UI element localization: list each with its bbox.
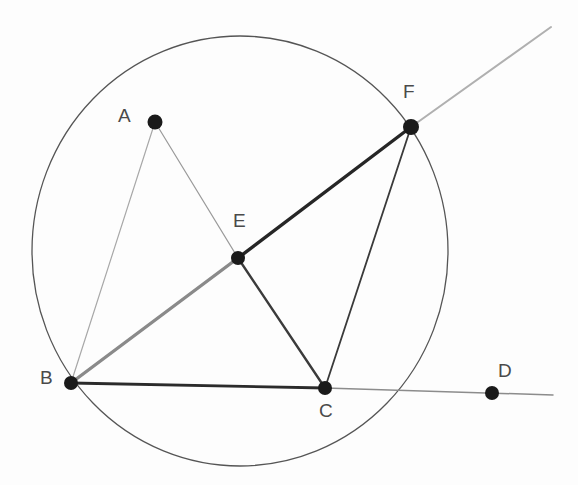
segment-A-E <box>155 122 238 258</box>
segment-A-B <box>71 122 155 383</box>
segment-B-E <box>71 258 238 383</box>
point-c[interactable] <box>318 381 332 395</box>
point-b[interactable] <box>64 376 78 390</box>
point-f[interactable] <box>403 119 419 135</box>
points-group <box>64 115 499 401</box>
segment-F-C <box>325 127 411 388</box>
segment-B-C <box>71 383 325 388</box>
point-label-a: A <box>118 106 131 125</box>
main-circle <box>32 36 448 466</box>
point-label-e: E <box>233 211 246 230</box>
segment-C-D-extended <box>325 388 553 395</box>
segment-E-F <box>238 127 411 258</box>
geometry-figure: ABCDEF <box>0 0 578 485</box>
point-label-f: F <box>403 82 415 101</box>
point-label-c: C <box>319 401 333 420</box>
point-e[interactable] <box>231 251 245 265</box>
point-label-d: D <box>498 361 512 380</box>
segment-E-C <box>238 258 325 388</box>
ray-F-beyond <box>411 27 551 127</box>
segments-group <box>71 27 553 395</box>
point-a[interactable] <box>148 115 163 130</box>
geometry-canvas <box>0 0 578 485</box>
point-label-b: B <box>40 368 53 387</box>
circle-group <box>32 36 448 466</box>
point-d[interactable] <box>485 386 499 400</box>
